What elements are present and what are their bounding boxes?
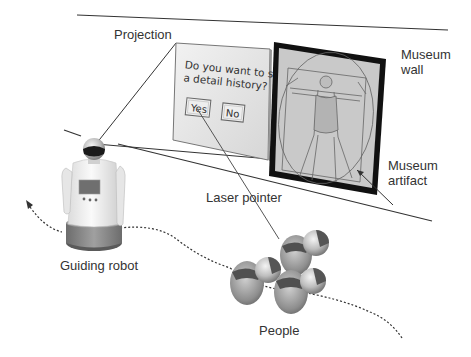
guiding-robot bbox=[62, 138, 125, 251]
person-2 bbox=[280, 230, 329, 275]
robot-visor bbox=[83, 146, 105, 157]
projected-dialog: Do you want to see a detail history? Yes… bbox=[173, 43, 287, 161]
guiding-robot-label: Guiding robot bbox=[60, 258, 138, 273]
robot-path-dotted bbox=[30, 207, 62, 232]
yes-button-label: Yes bbox=[189, 102, 207, 115]
museum-artifact-label: Museum artifact bbox=[388, 158, 438, 188]
museum-wall-label: Museum wall bbox=[401, 47, 451, 77]
laser-pointer-label: Laser pointer bbox=[206, 190, 282, 205]
person-1 bbox=[230, 257, 281, 305]
wall-floor-line-left bbox=[64, 130, 81, 136]
people-group bbox=[230, 230, 329, 314]
person-3 bbox=[274, 268, 326, 314]
people-label: People bbox=[259, 323, 299, 338]
robot-path-arrowhead bbox=[26, 200, 33, 209]
no-button[interactable]: No bbox=[221, 103, 245, 122]
no-button-label: No bbox=[225, 107, 240, 119]
projection-line-top bbox=[96, 43, 176, 144]
yes-button[interactable]: Yes bbox=[185, 98, 211, 117]
projection-label: Projection bbox=[114, 27, 172, 42]
museum-artifact-frame bbox=[269, 42, 386, 195]
